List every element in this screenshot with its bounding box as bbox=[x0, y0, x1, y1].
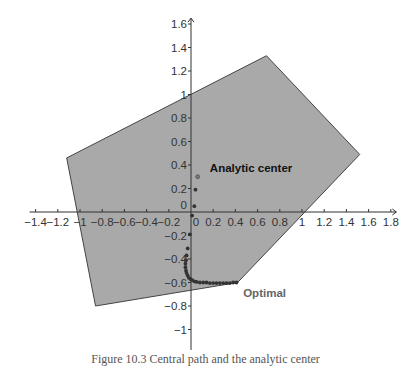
analytic-center-point bbox=[196, 175, 200, 179]
central-path-point bbox=[235, 281, 239, 285]
y-tick-label: −0.8 bbox=[164, 300, 187, 312]
x-tick-label: −0.4 bbox=[135, 216, 158, 228]
central-path-point bbox=[205, 281, 209, 285]
y-tick-label: −1 bbox=[174, 324, 187, 336]
x-tick-label: 0.6 bbox=[250, 216, 266, 228]
optimal-label: Optimal bbox=[243, 287, 286, 299]
x-tick-label: −1.4 bbox=[24, 216, 47, 228]
x-tick-label: −0.2 bbox=[157, 216, 180, 228]
central-path-point bbox=[231, 281, 235, 285]
figure-caption: Figure 10.3 Central path and the analyti… bbox=[0, 352, 411, 367]
y-tick-label: 0.6 bbox=[171, 136, 187, 148]
y-tick-label: 0.4 bbox=[171, 159, 188, 171]
central-path-point bbox=[211, 281, 215, 285]
y-tick-label: 1.4 bbox=[171, 42, 188, 54]
y-tick-label: 0.2 bbox=[171, 183, 187, 195]
x-tick-label: 0 bbox=[193, 216, 199, 228]
chart: −1.4−1.2−1−0.8−0.6−0.4−0.200.20.40.60.81… bbox=[0, 0, 411, 350]
x-tick-label: 1.8 bbox=[383, 216, 399, 228]
y-tick-label: −0.6 bbox=[164, 277, 187, 289]
x-tick-label: −0.8 bbox=[91, 216, 114, 228]
central-path-point bbox=[184, 262, 188, 266]
central-path-point bbox=[190, 214, 194, 218]
y-tick-label: 1.2 bbox=[171, 65, 187, 77]
central-path-point bbox=[198, 281, 202, 285]
central-path-point bbox=[201, 281, 205, 285]
central-path-point bbox=[228, 281, 232, 285]
y-tick-label: 0.8 bbox=[171, 112, 187, 124]
central-path-point bbox=[208, 281, 212, 285]
central-path-point bbox=[215, 281, 219, 285]
y-tick-label: 1.6 bbox=[171, 18, 187, 30]
x-tick-label: −1 bbox=[73, 216, 86, 228]
x-tick-label: 1.4 bbox=[338, 216, 355, 228]
central-path-point bbox=[184, 258, 188, 262]
y-tick-label: −0.2 bbox=[164, 230, 187, 242]
x-tick-label: 0.8 bbox=[272, 216, 288, 228]
central-path-point bbox=[184, 265, 188, 269]
x-tick-label: 0.2 bbox=[205, 216, 221, 228]
x-tick-label: 0.4 bbox=[227, 216, 244, 228]
central-path-point bbox=[185, 254, 189, 258]
x-tick-label: −0.6 bbox=[113, 216, 136, 228]
y-tick-label: 0 bbox=[181, 199, 187, 211]
central-path-point bbox=[188, 232, 192, 236]
central-path-point bbox=[194, 188, 198, 192]
central-path-point bbox=[218, 281, 222, 285]
central-path-point bbox=[186, 247, 190, 251]
x-tick-label: 1 bbox=[299, 216, 305, 228]
central-path-point bbox=[225, 281, 229, 285]
x-tick-label: 1.2 bbox=[316, 216, 332, 228]
central-path-point bbox=[195, 280, 199, 284]
central-path-point bbox=[221, 281, 225, 285]
x-tick-label: −1.2 bbox=[46, 216, 69, 228]
y-tick-label: 1 bbox=[181, 89, 187, 101]
central-path-point bbox=[192, 204, 196, 208]
x-tick-label: 1.6 bbox=[361, 216, 377, 228]
feasible-region bbox=[67, 56, 360, 306]
analytic-center-label: Analytic center bbox=[210, 162, 293, 174]
